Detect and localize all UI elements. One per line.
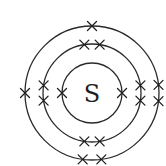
nucleus-symbol: S xyxy=(84,80,100,108)
sulfur-bohr-diagram: S xyxy=(0,0,166,166)
